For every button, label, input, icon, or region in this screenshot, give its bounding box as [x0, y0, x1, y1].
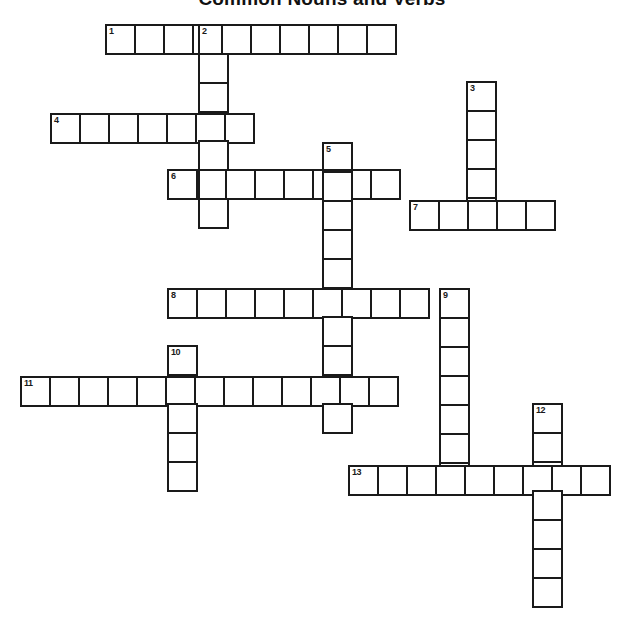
crossword-cell[interactable] — [439, 404, 470, 435]
clue-number-8: 8 — [171, 290, 176, 300]
crossword-cell-start-8[interactable]: 8 — [167, 288, 198, 319]
crossword-cell[interactable] — [399, 288, 430, 319]
crossword-cell[interactable] — [341, 288, 372, 319]
clue-number-9: 9 — [443, 290, 448, 300]
crossword-cell[interactable] — [464, 465, 495, 496]
crossword-cell[interactable] — [49, 376, 80, 407]
crossword-cell[interactable] — [198, 53, 229, 84]
crossword-cell[interactable] — [406, 465, 437, 496]
crossword-cell-start-10[interactable]: 10 — [167, 345, 198, 376]
crossword-cell[interactable] — [322, 171, 353, 202]
crossword-cell[interactable] — [439, 346, 470, 377]
crossword-cell[interactable] — [167, 461, 198, 492]
clue-number-5: 5 — [326, 144, 331, 154]
crossword-cell[interactable] — [532, 519, 563, 550]
clue-number-10: 10 — [171, 347, 180, 357]
crossword-cell[interactable] — [134, 24, 165, 55]
crossword-cell[interactable] — [225, 288, 256, 319]
crossword-cell-start-13[interactable]: 13 — [348, 465, 379, 496]
crossword-cell-start-9[interactable]: 9 — [439, 288, 470, 319]
crossword-cell[interactable] — [337, 24, 368, 55]
crossword-cell[interactable] — [370, 288, 401, 319]
crossword-cell[interactable] — [496, 200, 527, 231]
clue-number-2: 2 — [202, 26, 207, 36]
crossword-cell[interactable] — [366, 24, 397, 55]
clue-number-12: 12 — [536, 405, 545, 415]
crossword-cell[interactable] — [525, 200, 556, 231]
crossword-cell[interactable] — [167, 432, 198, 463]
crossword-cell[interactable] — [368, 376, 399, 407]
crossword-cell[interactable] — [322, 316, 353, 347]
crossword-cell[interactable] — [198, 140, 229, 171]
crossword-cell[interactable] — [283, 169, 314, 200]
clue-number-4: 4 — [54, 115, 59, 125]
crossword-cell[interactable] — [194, 376, 225, 407]
clue-number-11: 11 — [24, 378, 33, 388]
crossword-cell-start-6[interactable]: 6 — [167, 169, 198, 200]
crossword-cell[interactable] — [438, 200, 469, 231]
crossword-cell[interactable] — [377, 465, 408, 496]
crossword-cell[interactable] — [322, 200, 353, 231]
crossword-cell[interactable] — [370, 169, 401, 200]
crossword-cell[interactable] — [435, 465, 466, 496]
crossword-cell[interactable] — [439, 433, 470, 464]
crossword-cell[interactable] — [281, 376, 312, 407]
crossword-cell[interactable] — [252, 376, 283, 407]
crossword-cell[interactable] — [466, 139, 497, 170]
crossword-cell[interactable] — [466, 168, 497, 199]
crossword-cell-start-1[interactable]: 1 — [105, 24, 136, 55]
crossword-cell[interactable] — [163, 24, 194, 55]
crossword-cell[interactable] — [198, 82, 229, 113]
crossword-cell[interactable] — [493, 465, 524, 496]
crossword-cell[interactable] — [283, 288, 314, 319]
crossword-cell[interactable] — [137, 113, 168, 144]
crossword-cell[interactable] — [308, 24, 339, 55]
clue-number-1: 1 — [109, 26, 114, 36]
crossword-cell[interactable] — [322, 258, 353, 289]
crossword-cell[interactable] — [223, 376, 254, 407]
crossword-cell-start-3[interactable]: 3 — [466, 81, 497, 112]
crossword-cell[interactable] — [279, 24, 310, 55]
crossword-cell-start-12[interactable]: 12 — [532, 403, 563, 434]
crossword-cell[interactable] — [466, 110, 497, 141]
crossword-cell[interactable] — [78, 376, 109, 407]
crossword-page: Common Nouns and Verbs 12345678910111213 — [0, 0, 644, 631]
crossword-cell[interactable] — [198, 198, 229, 229]
crossword-cell[interactable] — [225, 169, 256, 200]
clue-number-6: 6 — [171, 171, 176, 181]
crossword-cell[interactable] — [107, 376, 138, 407]
clue-number-3: 3 — [470, 83, 475, 93]
crossword-cell[interactable] — [108, 113, 139, 144]
crossword-cell[interactable] — [322, 345, 353, 376]
crossword-cell[interactable] — [79, 113, 110, 144]
crossword-cell[interactable] — [312, 288, 343, 319]
crossword-cell[interactable] — [532, 490, 563, 521]
crossword-cell-start-4[interactable]: 4 — [50, 113, 81, 144]
crossword-cell[interactable] — [166, 113, 197, 144]
crossword-cell[interactable] — [467, 200, 498, 231]
crossword-cell[interactable] — [250, 24, 281, 55]
clue-number-7: 7 — [413, 202, 418, 212]
crossword-cell[interactable] — [221, 24, 252, 55]
crossword-cell[interactable] — [254, 169, 285, 200]
crossword-cell-start-11[interactable]: 11 — [20, 376, 51, 407]
crossword-cell[interactable] — [196, 288, 227, 319]
crossword-cell[interactable] — [532, 548, 563, 579]
crossword-cell[interactable] — [136, 376, 167, 407]
crossword-cell-start-7[interactable]: 7 — [409, 200, 440, 231]
crossword-cell[interactable] — [167, 403, 198, 434]
crossword-cell[interactable] — [322, 403, 353, 434]
crossword-cell[interactable] — [532, 432, 563, 463]
crossword-cell[interactable] — [254, 288, 285, 319]
clue-number-13: 13 — [352, 467, 361, 477]
crossword-cell[interactable] — [439, 375, 470, 406]
crossword-cell[interactable] — [580, 465, 611, 496]
crossword-cell[interactable] — [322, 229, 353, 260]
crossword-grid[interactable]: 12345678910111213 — [0, 0, 644, 631]
crossword-cell[interactable] — [532, 577, 563, 608]
crossword-cell[interactable] — [439, 317, 470, 348]
